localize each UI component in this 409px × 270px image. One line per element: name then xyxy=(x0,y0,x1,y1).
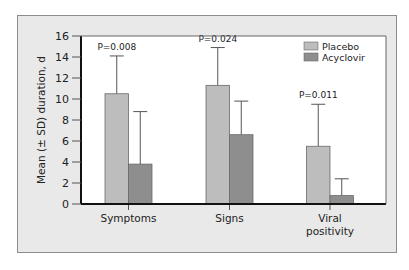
bar-acyclovir xyxy=(230,135,254,204)
bar-placebo xyxy=(307,146,331,204)
x-tick-label: Viral xyxy=(318,212,342,224)
y-tick-label: 8 xyxy=(62,114,69,127)
p-value-label: P=0.011 xyxy=(299,90,338,100)
legend-label-placebo: Placebo xyxy=(322,41,359,52)
y-tick-label: 12 xyxy=(55,72,69,85)
bar-placebo xyxy=(206,85,230,204)
bar-acyclovir xyxy=(129,164,153,204)
p-value-label: P=0.008 xyxy=(97,42,136,52)
x-tick-label: Symptoms xyxy=(100,212,156,224)
legend-label-acyclovir: Acyclovir xyxy=(322,52,365,63)
y-tick-label: 4 xyxy=(62,156,69,169)
bar-chart: P=0.008P=0.024P=0.011 SymptomsSignsViral… xyxy=(0,0,409,270)
y-tick-label: 0 xyxy=(62,198,69,211)
y-tick-label: 16 xyxy=(55,30,69,43)
legend-swatch-placebo xyxy=(304,42,318,50)
y-axis-label: Mean (± SD) duration, d xyxy=(35,56,47,184)
y-tick-label: 14 xyxy=(55,51,69,64)
bar-acyclovir xyxy=(330,196,354,204)
y-tick-label: 10 xyxy=(55,93,69,106)
y-tick-label: 6 xyxy=(62,135,69,148)
y-tick-label: 2 xyxy=(62,177,69,190)
p-value-label: P=0.024 xyxy=(198,34,237,44)
x-tick-label: Signs xyxy=(215,212,243,224)
x-tick-label: positivity xyxy=(306,225,354,237)
legend-swatch-acyclovir xyxy=(304,53,318,61)
bar-placebo xyxy=(105,94,129,204)
